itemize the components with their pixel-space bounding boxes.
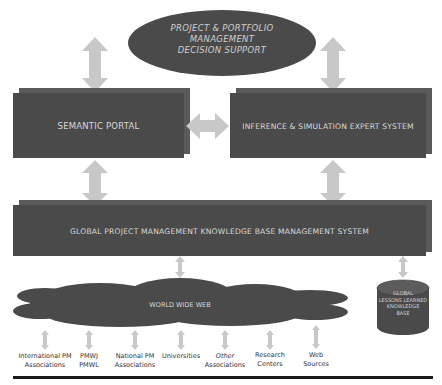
source-arrows xyxy=(41,325,320,350)
bottom-rule xyxy=(13,376,433,379)
arrow-global-lessons xyxy=(398,256,408,278)
global-kb-label: GLOBAL PROJECT MANAGEMENT KNOWLEDGE BASE… xyxy=(13,226,426,235)
semantic-portal: SEMANTIC PORTAL xyxy=(13,93,184,158)
inference-label: INFERENCE & SIMULATION EXPERT SYSTEM xyxy=(230,121,426,130)
arrow-portal-inference xyxy=(186,113,229,139)
semantic-portal-label: SEMANTIC PORTAL xyxy=(13,121,184,131)
arrow-ellipse-portal xyxy=(82,37,108,92)
inference-system: INFERENCE & SIMULATION EXPERT SYSTEM xyxy=(230,93,426,158)
lessons-learned-label: GLOBAL LESSONS LEARNED KNOWLEDGE BASE xyxy=(375,290,431,316)
arrow-global-web xyxy=(175,256,185,278)
ellipse-line-1: PROJECT & PORTFOLIO xyxy=(128,23,316,34)
decision-support-label: PROJECT & PORTFOLIO MANAGEMENT DECISION … xyxy=(128,23,316,56)
diagram-graphics xyxy=(0,0,442,385)
arrow-inference-global xyxy=(320,160,346,206)
world-wide-web-label: WORLD WIDE WEB xyxy=(130,301,230,309)
source-web-sources: Web Sources xyxy=(281,351,351,369)
source-line-2: Sources xyxy=(281,360,351,369)
arrow-portal-global xyxy=(82,160,108,206)
source-line-2: Associations xyxy=(100,361,170,370)
ellipse-line-2: MANAGEMENT xyxy=(128,34,316,45)
arrow-ellipse-inference xyxy=(320,37,346,92)
ellipse-line-3: DECISION SUPPORT xyxy=(128,45,316,56)
source-line-1: Web xyxy=(281,351,351,360)
cylinder-line-4: BASE xyxy=(375,310,431,317)
global-kb-system: GLOBAL PROJECT MANAGEMENT KNOWLEDGE BASE… xyxy=(13,205,426,256)
